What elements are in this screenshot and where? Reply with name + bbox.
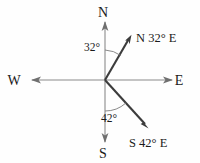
ray-n32e-group <box>105 35 132 80</box>
angle-label-32: 32° <box>84 41 101 53</box>
cardinal-label-west: W <box>7 73 21 88</box>
ray-line-n32e <box>105 40 129 81</box>
bearing-label-n32e: N 32° E <box>136 31 177 45</box>
cardinal-label-north: N <box>98 5 108 20</box>
cardinal-label-east: E <box>175 73 184 88</box>
angle-label-42: 42° <box>101 112 118 124</box>
cardinal-label-south: S <box>99 146 107 161</box>
angle-arc-42 <box>105 103 126 111</box>
compass-bearing-diagram: N S W E N 32° E S 42° E 32° 42° <box>0 0 200 163</box>
axis-group-horizontal <box>31 77 173 84</box>
bearing-diagram-canvas: N S W E N 32° E S 42° E 32° 42° <box>0 0 200 163</box>
bearing-label-s42e: S 42° E <box>129 136 168 150</box>
